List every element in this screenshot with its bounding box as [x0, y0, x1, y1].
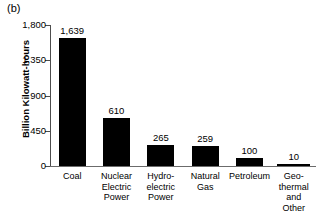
x-axis-category-label: Natural Gas — [191, 171, 220, 192]
panel-label: (b) — [7, 2, 20, 14]
bar-group: 265Hydro- electric Power — [139, 25, 183, 166]
bar-value-label: 10 — [289, 151, 300, 162]
x-axis-category-label: Coal — [63, 171, 82, 182]
bar-group: 1,639Coal — [50, 25, 94, 166]
bar-value-label: 100 — [242, 145, 258, 156]
bar-value-label: 610 — [109, 105, 125, 116]
bar[interactable]: 100 — [236, 158, 263, 166]
bar[interactable]: 10 — [277, 164, 310, 167]
x-axis-category-label: Petroleum — [229, 171, 270, 182]
bar-group: 259Natural Gas — [183, 25, 227, 166]
y-axis-tick-label: 900 — [30, 90, 46, 101]
bar-value-label: 1,639 — [60, 25, 84, 36]
bar[interactable]: 610 — [103, 118, 130, 166]
bar-group: 610Nuclear Electric Power — [94, 25, 138, 166]
x-axis-category-label: Hydro- electric Power — [147, 171, 176, 203]
y-axis-tick-label: 450 — [30, 125, 46, 136]
bar[interactable]: 259 — [192, 146, 219, 166]
bar-group: 10Geo- thermal and Other — [272, 25, 316, 166]
plot-area: 04509001,3501,800 1,639Coal610Nuclear El… — [50, 25, 316, 166]
bar-group: 100Petroleum — [227, 25, 271, 166]
y-axis-tick-label: 0 — [41, 160, 46, 171]
y-axis-tick-label: 1,800 — [22, 19, 46, 30]
bar-value-label: 265 — [153, 132, 169, 143]
bar-value-label: 259 — [197, 133, 213, 144]
bar[interactable]: 265 — [147, 145, 174, 166]
figure-panel: (b) Billion Kilowatt-hours 04509001,3501… — [0, 0, 323, 215]
bar[interactable]: 1,639 — [59, 38, 86, 166]
x-axis-baseline — [50, 166, 316, 167]
x-axis-category-label: Geo- thermal and Other — [279, 171, 309, 213]
y-axis-tick-label: 1,350 — [22, 54, 46, 65]
x-axis-category-label: Nuclear Electric Power — [101, 171, 132, 203]
